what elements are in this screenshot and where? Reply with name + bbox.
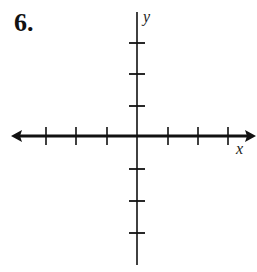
coordinate-axes: y x bbox=[0, 0, 257, 272]
y-axis-label: y bbox=[141, 8, 151, 26]
x-axis-label: x bbox=[235, 140, 243, 157]
